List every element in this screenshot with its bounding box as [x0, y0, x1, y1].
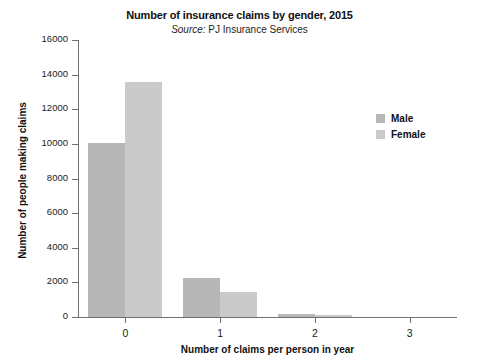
- legend-swatch-icon: [376, 130, 385, 139]
- y-axis-tick-label: 2000: [47, 275, 68, 286]
- bar-male-1: [183, 278, 220, 317]
- x-axis-tick: [410, 318, 411, 323]
- plot-area: 0200040006000800010000120001400016000012…: [78, 40, 457, 318]
- y-axis-tick: 12000: [72, 109, 78, 110]
- y-axis-tick-label: 12000: [42, 102, 68, 113]
- y-axis-tick-label: 16000: [42, 33, 68, 44]
- y-axis-tick: 2000: [72, 282, 78, 283]
- legend-label: Female: [391, 129, 425, 140]
- chart-title-block: Number of insurance claims by gender, 20…: [0, 9, 479, 36]
- legend-label: Male: [391, 113, 413, 124]
- y-axis-tick: 0: [72, 317, 78, 318]
- x-axis-tick-label: 2: [285, 327, 345, 339]
- y-axis-tick: 6000: [72, 213, 78, 214]
- bar-female-2: [315, 315, 352, 317]
- y-axis-tick: 4000: [72, 248, 78, 249]
- legend-swatch-icon: [376, 114, 385, 123]
- y-axis-line: [78, 40, 79, 318]
- x-axis-line: [78, 317, 457, 318]
- bar-female-1: [220, 292, 257, 317]
- legend-item-female[interactable]: Female: [376, 126, 425, 142]
- bar-female-0: [125, 82, 162, 317]
- x-axis-tick: [315, 318, 316, 323]
- y-axis-title: Number of people making claims: [17, 71, 28, 291]
- x-axis-tick-label: 0: [95, 327, 155, 339]
- y-axis-tick: 8000: [72, 179, 78, 180]
- legend-item-male[interactable]: Male: [376, 110, 425, 126]
- x-axis-tick-label: 1: [190, 327, 250, 339]
- chart-subtitle-source-word: Source:: [171, 24, 205, 35]
- y-axis-tick: 16000: [72, 40, 78, 41]
- y-axis-tick-label: 0: [63, 310, 68, 321]
- x-axis-tick: [125, 318, 126, 323]
- bar-chart: Number of insurance claims by gender, 20…: [0, 0, 479, 364]
- y-axis-tick-label: 14000: [42, 68, 68, 79]
- x-axis-tick: [220, 318, 221, 323]
- y-axis-tick: 10000: [72, 144, 78, 145]
- chart-legend: MaleFemale: [376, 110, 425, 142]
- y-axis-tick-label: 4000: [47, 241, 68, 252]
- bar-male-0: [88, 143, 125, 317]
- x-axis-tick-label: 3: [380, 327, 440, 339]
- chart-subtitle: Source: PJ Insurance Services: [0, 23, 479, 36]
- bar-male-2: [278, 314, 315, 317]
- y-axis-tick-label: 10000: [42, 137, 68, 148]
- chart-subtitle-source-text: PJ Insurance Services: [206, 24, 308, 35]
- chart-title: Number of insurance claims by gender, 20…: [0, 9, 479, 22]
- y-axis-tick-label: 6000: [47, 206, 68, 217]
- y-axis-tick-label: 8000: [47, 172, 68, 183]
- x-axis-title: Number of claims per person in year: [78, 344, 457, 355]
- y-axis-tick: 14000: [72, 75, 78, 76]
